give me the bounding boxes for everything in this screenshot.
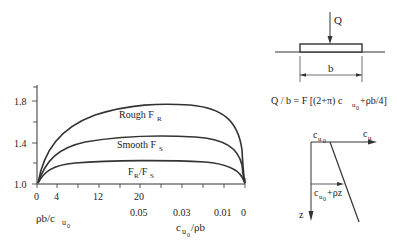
svg-text:0: 0 <box>67 223 70 229</box>
x-ticks <box>37 184 245 188</box>
cu0-plus-pz-label: c u 0 +ρz <box>314 187 343 202</box>
svg-text:u: u <box>182 227 186 236</box>
svg-text:S: S <box>159 145 163 153</box>
svg-text:0: 0 <box>356 105 359 111</box>
label-rough: Rough F R <box>119 109 162 123</box>
footing <box>300 44 362 52</box>
load-arrow-head <box>328 36 333 44</box>
width-label: b <box>328 62 334 74</box>
strength-line <box>330 142 359 222</box>
svg-text:S: S <box>150 172 154 180</box>
svg-text:/F: /F <box>139 166 148 177</box>
x-tick-label: 4 <box>54 191 59 202</box>
x-axis-label-primary: ρb/c u 0 <box>36 212 70 229</box>
x2-tick-label: 0.01 <box>214 207 232 218</box>
y-tick-label: 1.8 <box>14 96 27 107</box>
load-label: Q <box>334 14 342 26</box>
svg-text:Smooth F: Smooth F <box>117 139 157 150</box>
formula: Q / b = F [(2+π) c u 0 +ρb/4] <box>271 95 387 111</box>
z-label: z <box>299 209 304 220</box>
svg-text:+ρb/4]: +ρb/4] <box>360 95 387 106</box>
svg-text:Rough F: Rough F <box>119 109 154 120</box>
svg-text:0: 0 <box>187 232 190 238</box>
svg-text:u: u <box>368 134 372 142</box>
figure: 1.0 1.4 1.8 0 4 12 20 0.05 0.03 0.01 0 ρ… <box>0 0 397 247</box>
y-tick-label: 1.4 <box>14 138 27 149</box>
svg-text:+ρz: +ρz <box>327 187 343 198</box>
label-ratio: F R /F S <box>128 166 154 180</box>
svg-text:R: R <box>157 115 162 123</box>
svg-text:/ρb: /ρb <box>191 221 206 233</box>
svg-text:0: 0 <box>323 196 326 202</box>
x2-tick-label: 0.05 <box>130 207 148 218</box>
x-tick-label: 20 <box>134 191 144 202</box>
svg-text:u: u <box>318 135 322 143</box>
svg-text:ρb/c: ρb/c <box>36 212 55 224</box>
svg-text:c: c <box>176 221 181 233</box>
x2-tick-label: 0.03 <box>173 207 191 218</box>
y-ticks <box>32 87 37 184</box>
cu-axis-label: c u <box>363 128 372 142</box>
x-tick-label: 0 <box>34 191 39 202</box>
label-smooth: Smooth F S <box>117 139 163 153</box>
svg-text:0: 0 <box>323 138 326 144</box>
z-arrow-head <box>309 211 314 221</box>
x2-tick-label: 0 <box>241 207 246 218</box>
x-axis-label-secondary: c u 0 /ρb <box>176 221 206 238</box>
strength-profile <box>309 140 378 223</box>
svg-text:Q / b = F [(2+π) c: Q / b = F [(2+π) c <box>271 95 343 107</box>
y-tick-label: 1.0 <box>14 179 27 190</box>
x-tick-label: 12 <box>93 191 103 202</box>
svg-text:u: u <box>62 218 66 227</box>
